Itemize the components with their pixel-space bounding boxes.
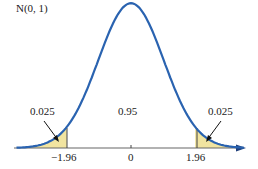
- normal-curve-plot: [0, 0, 258, 169]
- tick-label-right: 1.96: [186, 151, 205, 163]
- tick-label-center: 0: [128, 151, 134, 163]
- tick-label-left: −1.96: [51, 151, 76, 163]
- center-area-label: 0.95: [118, 105, 137, 117]
- right-area-label: 0.025: [208, 105, 233, 117]
- left-area-label: 0.025: [30, 105, 55, 117]
- chart-title: N(0, 1): [16, 2, 48, 14]
- density-curve: [17, 3, 244, 148]
